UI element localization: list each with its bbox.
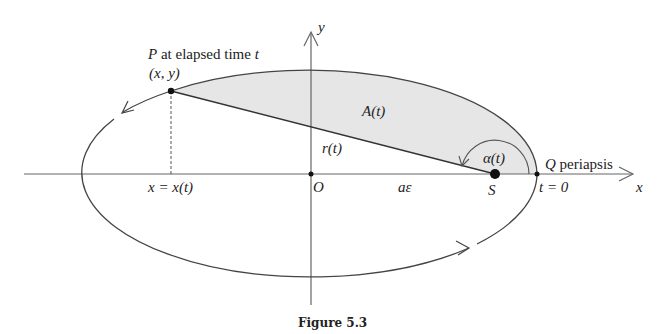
orbit-ellipse-final [477,174,537,244]
y-axis-label: y [318,20,325,35]
focus-s [490,169,500,179]
point-p-label: P at elapsed time t [148,47,259,62]
area-label: A(t) [362,104,385,119]
p-symbol: P [148,46,157,62]
orbit-ellipse-segment [123,91,171,112]
periapsis-label: Q periapsis [545,157,613,172]
point-q [535,172,540,177]
periapsis-text: periapsis [560,156,613,172]
q-symbol: Q [545,156,556,172]
radius-label: r(t) [322,141,342,156]
point-p [168,88,174,94]
x-of-t-label: x = x(t) [148,180,193,195]
origin-point [309,172,314,177]
p-time-symbol: t [255,46,259,62]
p-description: at elapsed time [161,46,251,62]
x-axis-label: x [636,180,643,195]
figure-caption: Figure 5.3 [298,316,367,330]
focal-offset-label: aε [398,180,411,195]
t-zero-label: t = 0 [539,180,568,195]
coords-label: (x, y) [149,66,180,81]
origin-label: O [313,180,324,195]
focus-label: S [488,183,496,198]
angle-label: α(t) [483,151,505,166]
figure-5-3: P at elapsed time t (x, y) A(t) r(t) α(t… [0,0,664,334]
